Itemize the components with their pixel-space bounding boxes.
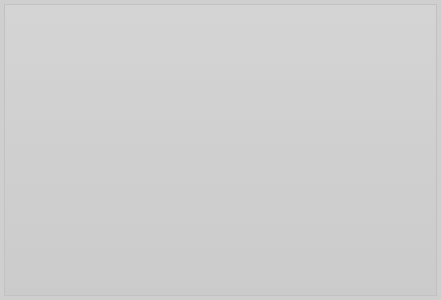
chart-svg [0,0,441,300]
chart-figure [0,0,441,300]
